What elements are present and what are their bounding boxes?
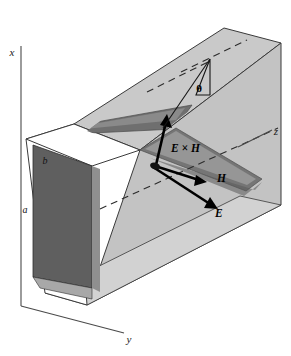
x-axis-label: x: [9, 46, 15, 58]
dimension-a-label: a: [23, 204, 28, 215]
interior-back-wall: [33, 145, 92, 288]
z-axis-label: z: [273, 125, 279, 137]
interior-right-wall: [92, 166, 100, 292]
magnetic-field-label: H: [216, 172, 227, 184]
poynting-vector-label: E × H: [170, 142, 201, 154]
incidence-angle-label: θ: [196, 82, 202, 94]
y-axis-line: [21, 306, 124, 333]
y-axis-label: y: [126, 333, 132, 345]
electric-field-label: E: [214, 207, 223, 219]
waveguide-interior: [33, 145, 100, 299]
dimension-b-label: b: [43, 155, 48, 166]
waveguide-figure: x y z b a θ E × H H E: [0, 0, 291, 356]
waveguide-diagram-svg: x y z b a θ E × H H E: [0, 0, 291, 356]
